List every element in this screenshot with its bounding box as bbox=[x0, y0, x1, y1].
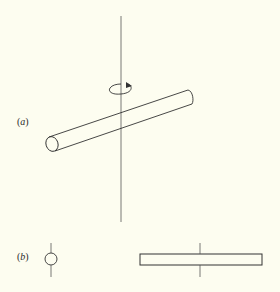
circle-end-view bbox=[45, 243, 57, 277]
panel-a-label: (a) bbox=[17, 116, 29, 127]
panel-a bbox=[44, 16, 193, 222]
inclined-cylinder bbox=[44, 90, 193, 153]
panel-b-label: (b) bbox=[17, 251, 29, 262]
figure bbox=[0, 0, 280, 292]
rectangle-side-view bbox=[140, 243, 262, 277]
panel-b bbox=[45, 243, 262, 277]
